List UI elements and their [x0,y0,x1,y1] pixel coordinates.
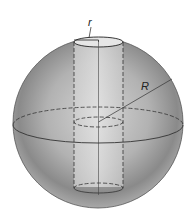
small-radius-leader [89,27,91,38]
label-large-radius: R [141,80,149,92]
label-small-radius: r [88,16,93,28]
sphere-with-cylindrical-hole-diagram: r R [0,0,192,223]
